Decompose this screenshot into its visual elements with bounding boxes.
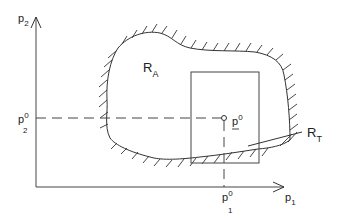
y-axis-label: p2 <box>18 12 29 28</box>
feasible-region-diagram: p2 p1 RA RT p0 p0 1 p0 2 <box>0 0 339 222</box>
p2-marker-label: p0 <box>18 111 29 125</box>
p1-marker-subscript: 1 <box>228 206 233 215</box>
point-p0-label: p0 <box>232 113 243 127</box>
p1-marker-label: p0 <box>222 189 233 203</box>
region-t-leader-line <box>248 132 302 146</box>
x-axis-label: p1 <box>285 191 296 207</box>
region-a-label: RA <box>143 60 158 79</box>
region-a-boundary <box>107 32 290 159</box>
region-t-label: RT <box>307 125 322 144</box>
region-a-hatching <box>99 24 298 167</box>
p2-marker-subscript: 2 <box>23 126 28 135</box>
point-p0-marker <box>222 116 227 121</box>
axes <box>36 17 284 187</box>
